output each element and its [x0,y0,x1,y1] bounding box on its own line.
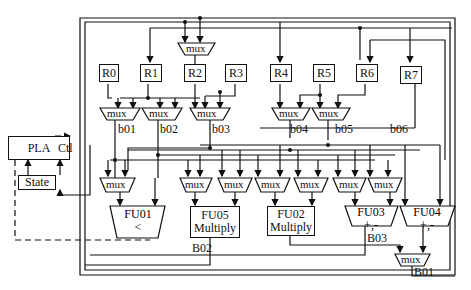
mux-label: mux [186,43,206,54]
ctl-label: Ctl [58,142,73,154]
register-r2: R2 [184,64,206,82]
fu01-op: < [117,221,159,234]
bus-b03-global: B03 [367,232,387,244]
bus-b01-global: B01 [414,266,434,278]
bus-b02-global: B02 [192,242,212,254]
fu02-op: Multiply [270,221,312,234]
mux-label: mux [261,179,281,190]
mux-label: mux [197,108,217,119]
mux-label: mux [149,108,169,119]
mux-label: mux [339,179,359,190]
mux-label: mux [224,179,244,190]
register-r4: R4 [270,64,292,82]
mux-label: mux [106,179,126,190]
bus-b05: b05 [335,123,353,135]
register-r1: R1 [140,64,162,82]
mux-label: mux [401,254,421,265]
mux-label: mux [107,108,127,119]
mux-label: mux [300,179,320,190]
mux-label: mux [185,179,205,190]
mux-label: mux [279,108,299,119]
fu02: FU02 Multiply [267,206,315,236]
bus-b06: b06 [390,123,408,135]
register-r6: R6 [356,64,378,82]
mux-label: mux [319,108,339,119]
register-r0: R0 [99,64,119,82]
fu01: FU01 < [117,208,159,234]
state-register: State [18,175,56,190]
fu03-op: +,- [348,219,394,232]
fu05-op: Multiply [194,222,236,235]
bus-b04: b04 [290,123,308,135]
state-label: State [25,176,49,189]
register-r7: R7 [400,66,422,84]
datapath-diagram: PLA State Ctl R0 R1 R2 R3 R4 R5 R6 R7 mu… [0,0,471,290]
bus-b02: b02 [160,123,178,135]
fu04-op: +,- [403,219,451,232]
register-r5: R5 [313,64,335,82]
bus-b01: b01 [118,123,136,135]
mux-label: mux [374,179,394,190]
fu03: FU03 +,- [348,206,394,232]
fu05: FU05 Multiply [190,206,240,238]
fu04: FU04 +,- [403,206,451,232]
bus-b03: b03 [212,123,230,135]
pla-label: PLA [28,142,51,155]
register-r3: R3 [225,64,247,82]
